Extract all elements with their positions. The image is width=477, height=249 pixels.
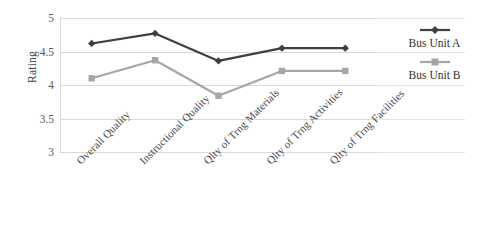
data-point-marker	[152, 30, 159, 37]
chart-container: Rating 54.543.53 Overall QualityInstruct…	[0, 0, 477, 249]
legend-label: Bus Unit A	[392, 36, 477, 50]
legend-entry[interactable]: Bus Unit A	[392, 24, 477, 50]
data-point-marker	[342, 45, 349, 52]
gridline-extension	[377, 52, 465, 53]
y-axis-tick-label: 4	[24, 79, 54, 91]
y-axis-tick-label: 5	[24, 12, 54, 24]
gridline-extension	[377, 152, 465, 153]
data-point-marker	[342, 68, 348, 74]
data-point-marker	[278, 45, 285, 52]
legend-entry[interactable]: Bus Unit B	[392, 56, 477, 82]
y-axis-tick-label: 3.5	[24, 113, 54, 125]
data-point-marker	[279, 68, 285, 74]
y-axis-tick-label: 4.5	[24, 46, 54, 58]
chart-legend: Bus Unit ABus Unit B	[392, 24, 477, 88]
square-marker-icon	[392, 56, 477, 68]
series-line	[92, 60, 346, 95]
legend-label: Bus Unit B	[392, 68, 477, 82]
series-line	[92, 33, 346, 61]
gridline-extension	[377, 85, 465, 86]
data-point-marker	[152, 57, 158, 63]
data-point-marker	[88, 40, 95, 47]
gridline-extension	[377, 18, 465, 19]
y-axis-tick-labels: 54.543.53	[24, 0, 54, 249]
data-point-marker	[215, 57, 222, 64]
gridline-extension	[377, 119, 465, 120]
data-point-marker	[89, 75, 95, 81]
y-axis-tick-label: 3	[24, 146, 54, 158]
diamond-marker-icon	[392, 24, 477, 36]
data-point-marker	[215, 93, 221, 99]
